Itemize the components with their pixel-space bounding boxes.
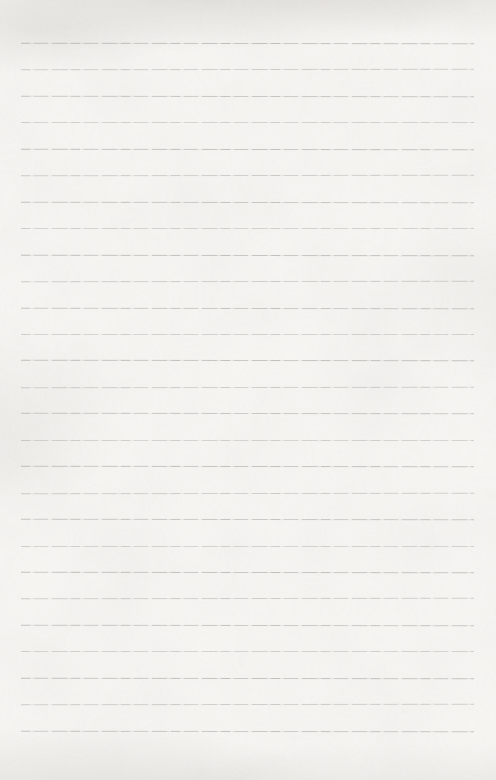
- ruled-lines: [0, 0, 496, 780]
- notebook-page: [0, 0, 496, 780]
- ruled-line: [21, 307, 474, 309]
- ruled-line: [21, 175, 474, 176]
- ruled-line: [21, 519, 474, 521]
- ruled-line: [21, 228, 474, 229]
- ruled-line: [21, 413, 474, 415]
- ruled-line: [21, 360, 474, 361]
- ruled-line: [21, 281, 474, 282]
- ruled-line: [21, 440, 474, 441]
- ruled-line: [21, 545, 474, 546]
- ruled-line: [21, 43, 474, 44]
- ruled-line: [21, 96, 474, 98]
- ruled-line: [21, 149, 474, 150]
- ruled-line: [21, 678, 474, 679]
- ruled-line: [21, 598, 474, 599]
- ruled-line: [21, 69, 474, 70]
- ruled-line: [21, 254, 474, 255]
- ruled-line: [21, 492, 474, 493]
- ruled-line: [21, 122, 474, 123]
- ruled-line: [21, 572, 474, 573]
- ruled-line: [21, 201, 474, 203]
- ruled-line: [21, 334, 474, 335]
- ruled-line: [21, 466, 474, 467]
- ruled-line: [21, 730, 474, 732]
- ruled-line: [21, 651, 474, 652]
- ruled-line: [21, 704, 474, 705]
- ruled-line: [21, 387, 474, 388]
- ruled-line: [21, 625, 474, 627]
